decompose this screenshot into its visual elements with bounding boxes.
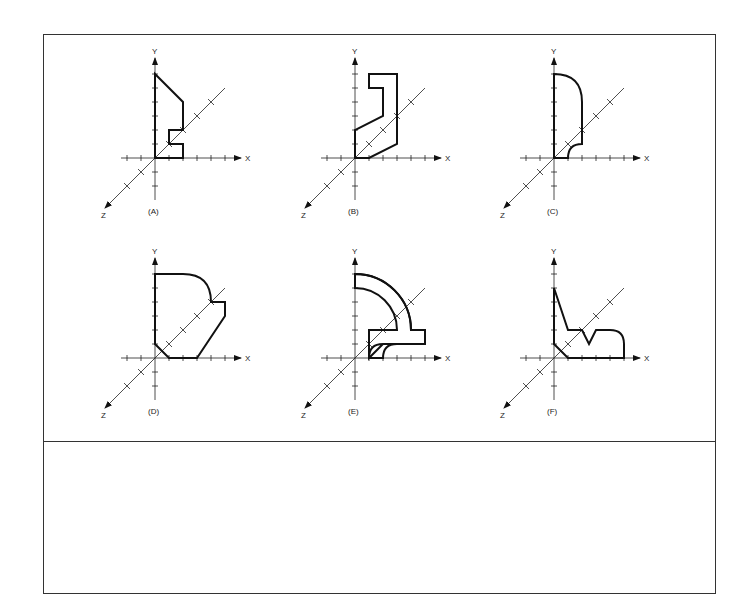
caption-d: (D) bbox=[148, 407, 159, 416]
svg-text:Z: Z bbox=[301, 411, 306, 420]
caption-b: (B) bbox=[348, 207, 359, 216]
panel-e: X Y Z (E) bbox=[301, 247, 451, 420]
svg-text:Y: Y bbox=[152, 247, 158, 256]
svg-text:Y: Y bbox=[152, 47, 158, 56]
svg-text:Y: Y bbox=[352, 47, 358, 56]
panel-b: X Y Z (B) bbox=[301, 47, 451, 220]
panel-c: X Y Z (C) bbox=[500, 47, 650, 220]
panel-a: X Y Z (A) bbox=[101, 47, 251, 220]
profile-c bbox=[554, 74, 582, 158]
profile-d bbox=[155, 274, 225, 358]
svg-text:X: X bbox=[445, 154, 451, 163]
caption-e: (E) bbox=[348, 407, 359, 416]
svg-text:Z: Z bbox=[101, 211, 106, 220]
caption-a: (A) bbox=[148, 207, 159, 216]
svg-text:Z: Z bbox=[500, 211, 505, 220]
svg-text:Z: Z bbox=[301, 211, 306, 220]
svg-text:Z: Z bbox=[101, 411, 106, 420]
caption-c: (C) bbox=[547, 207, 558, 216]
profile-a bbox=[155, 74, 183, 158]
svg-text:X: X bbox=[245, 154, 251, 163]
panel-d: X Y Z (D) bbox=[101, 247, 251, 420]
svg-text:X: X bbox=[245, 354, 251, 363]
profile-b bbox=[355, 74, 397, 158]
svg-text:Y: Y bbox=[352, 247, 358, 256]
caption-f: (F) bbox=[547, 407, 558, 416]
svg-text:X: X bbox=[644, 354, 650, 363]
svg-text:Y: Y bbox=[551, 47, 557, 56]
svg-text:X: X bbox=[445, 354, 451, 363]
panel-f: X Y Z (F) bbox=[500, 247, 650, 420]
svg-text:X: X bbox=[644, 154, 650, 163]
svg-text:Z: Z bbox=[500, 411, 505, 420]
svg-text:Y: Y bbox=[551, 247, 557, 256]
